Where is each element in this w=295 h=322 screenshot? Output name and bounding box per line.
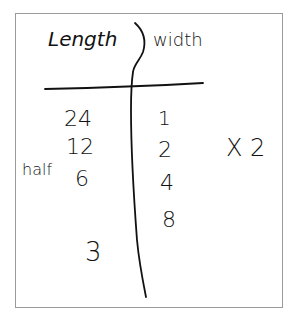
length-value: 12 [66,134,94,159]
length-value: 24 [64,106,92,131]
half-annotation: half [22,160,52,179]
length-value: 6 [75,166,89,191]
length-value: 3 [85,237,102,267]
width-value: 8 [162,207,176,232]
header-length: Length [48,27,117,51]
width-value: 1 [158,106,171,130]
times-two-annotation: X 2 [226,134,265,162]
header-width: width [153,29,203,50]
width-value: 2 [158,137,172,162]
width-value: 4 [160,170,174,195]
